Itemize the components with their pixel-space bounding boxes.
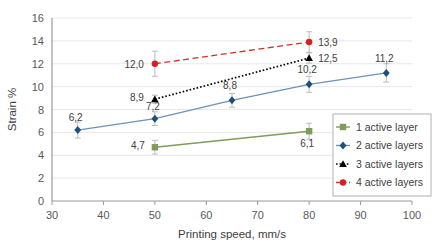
y-tick-label-8: 8 [38, 104, 44, 116]
x-tick-label-90: 90 [354, 209, 366, 221]
y-tick-label-0: 0 [38, 195, 44, 207]
data-label: 11,2 [375, 53, 394, 64]
data-label: 4,7 [131, 140, 145, 151]
data-label: 13,9 [318, 37, 338, 48]
strain-vs-printing-speed-chart: 024681012141630405060708090100Printing s… [0, 0, 432, 243]
y-tick-label-4: 4 [38, 149, 44, 161]
x-tick-label-40: 40 [97, 209, 109, 221]
data-label: 7,2 [146, 101, 160, 112]
x-tick-label-100: 100 [403, 209, 421, 221]
x-tick-label-80: 80 [303, 209, 315, 221]
y-axis-title: Strain % [6, 88, 18, 131]
x-tick-label-50: 50 [149, 209, 161, 221]
data-label: 12,5 [318, 53, 338, 64]
data-label: 8,9 [130, 92, 144, 103]
marker-circle [340, 179, 346, 185]
data-label: 6,2 [69, 112, 83, 123]
x-tick-label-60: 60 [200, 209, 212, 221]
chart-canvas: 024681012141630405060708090100Printing s… [0, 0, 432, 243]
legend-label: 2 active layers [356, 139, 423, 151]
y-tick-label-12: 12 [32, 58, 44, 70]
marker-square [340, 124, 346, 130]
y-tick-label-10: 10 [32, 81, 44, 93]
x-tick-label-30: 30 [46, 209, 58, 221]
marker-circle [306, 39, 312, 45]
marker-square [152, 144, 158, 150]
x-axis-title: Printing speed, mm/s [178, 228, 286, 240]
y-tick-label-16: 16 [32, 12, 44, 24]
data-label: 8,8 [223, 80, 237, 91]
legend-label: 3 active layers [356, 158, 423, 170]
data-label: 10,2 [297, 64, 317, 75]
y-tick-label-14: 14 [32, 35, 44, 47]
y-tick-label-2: 2 [38, 172, 44, 184]
legend-label: 1 active layer [356, 121, 418, 133]
legend-label: 4 active layers [356, 176, 423, 188]
data-label: 12,0 [124, 59, 144, 70]
x-tick-label-70: 70 [252, 209, 264, 221]
data-label: 6,1 [300, 138, 314, 149]
marker-circle [152, 61, 158, 67]
y-tick-label-6: 6 [38, 126, 44, 138]
marker-square [306, 128, 312, 134]
